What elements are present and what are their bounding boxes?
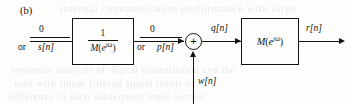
sum-output-label: q[n]: [211, 24, 228, 34]
ghost-text-line: difference in each subsequent input sect…: [8, 91, 206, 102]
wire-input-to-inverse-block: [30, 41, 73, 42]
arrowhead-output: [339, 38, 345, 44]
forward-close-paren: ): [280, 36, 283, 47]
figure-block-diagram: internal communication performance with …: [0, 0, 352, 104]
output-label: r[n]: [306, 24, 322, 34]
mid-signal-bottom-label: p[n]: [157, 43, 174, 53]
ghost-text-line: user with linear filtered signal levels …: [14, 78, 195, 89]
forward-block-expression: M(ejΩ): [257, 36, 283, 47]
wire-forward-block-to-output: [299, 41, 343, 42]
ghost-text-line: sequence analysis of digital transmissio…: [12, 64, 236, 75]
noise-input-label: w[n]: [198, 77, 216, 87]
mid-signal-rule: [140, 37, 182, 38]
block-inverse-magnitude: 1 M(ejΩ): [72, 18, 134, 65]
wire-noise-into-adder: [193, 57, 194, 104]
block-forward-magnitude: M(ejΩ): [241, 18, 299, 65]
fraction-numerator: 1: [97, 29, 110, 40]
wire-inverse-block-to-adder: [134, 41, 184, 42]
input-or-word: or: [18, 43, 26, 53]
mid-signal-top-label: 0: [150, 25, 155, 35]
mid-signal-or-word: or: [137, 43, 145, 53]
inverse-fraction: 1 M(ejΩ): [88, 29, 117, 54]
input-bottom-label: s[n]: [38, 43, 54, 53]
fraction-denominator: M(ejΩ): [88, 41, 117, 54]
summing-junction: +: [185, 33, 202, 50]
plus-sign: +: [186, 34, 201, 49]
denominator-close-paren: ): [112, 43, 115, 53]
forward-function-name: M: [257, 36, 265, 47]
arrowhead-noise-into-adder: [190, 51, 196, 57]
input-rule: [30, 37, 70, 38]
input-top-label: 0: [39, 25, 44, 35]
panel-label: (b): [20, 6, 32, 17]
arrowhead-into-adder: [178, 38, 184, 44]
ghost-text-line: internal communication performance with …: [60, 2, 297, 14]
